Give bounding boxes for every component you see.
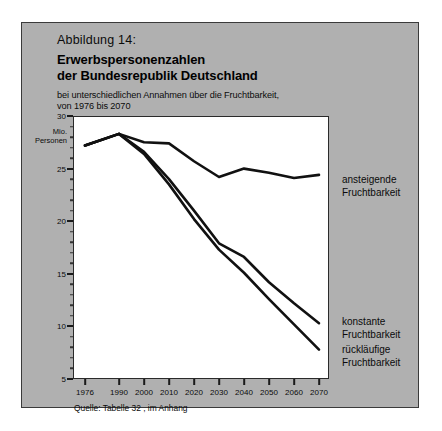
x-axis-tick-label: 2020 (185, 388, 203, 397)
series-line (85, 134, 319, 178)
x-axis-tick-label: 2030 (210, 388, 228, 397)
figure-title-line-1: Erwerbspersonenzahlen (57, 52, 387, 68)
legend-rising-line-1: ansteigende (342, 173, 400, 186)
y-axis-tick-label: 10 (57, 322, 66, 331)
plot-wrapper: Mio. Personen 30252015105 19761990200020… (73, 116, 329, 379)
figure-title-block: Abbildung 14: Erwerbspersonenzahlen der … (57, 33, 387, 113)
legend-rising-line-2: Fruchtbarkeit (342, 186, 400, 199)
x-axis-tick-label: 1976 (76, 388, 94, 397)
y-axis-tick-label: 25 (57, 164, 66, 173)
legend-ansteigende-fruchtbarkeit: ansteigende Fruchtbarkeit (342, 173, 400, 199)
x-axis-tick-label: 2070 (310, 388, 328, 397)
x-axis-tick-label: 2040 (235, 388, 253, 397)
figure-panel: Abbildung 14: Erwerbspersonenzahlen der … (21, 22, 419, 408)
legend-declining-line-1: rückläufige (342, 343, 400, 356)
x-axis-tick (143, 379, 145, 385)
x-axis-tick (268, 379, 270, 385)
x-axis-tick-label: 2060 (285, 388, 303, 397)
series-lines (73, 116, 329, 379)
x-axis-tick (218, 379, 220, 385)
y-axis-tick-label: 5 (62, 375, 66, 384)
x-axis-tick-label: 1990 (110, 388, 128, 397)
x-axis-tick (243, 379, 245, 385)
legend-constant-line-2: Fruchtbarkeit (342, 328, 400, 341)
x-axis-tick-label: 2000 (135, 388, 153, 397)
y-axis-tick-label: 30 (57, 112, 66, 121)
figure-subtitle-line-1: bei unterschiedlichen Annahmen über die … (57, 90, 387, 102)
y-axis-unit-line-2: Personen (21, 137, 67, 146)
source-note: Quelle: Tabelle 32 , im Anhang (74, 403, 187, 413)
figure-number: Abbildung 14: (57, 33, 387, 47)
x-axis-tick (318, 379, 320, 385)
legend-konstante-fruchtbarkeit: konstante Fruchtbarkeit (342, 315, 400, 341)
legend-ruecklaeufige-fruchtbarkeit: rückläufige Fruchtbarkeit (342, 343, 400, 369)
figure-subtitle-line-2: von 1976 bis 2070 (57, 101, 387, 113)
x-axis-tick (168, 379, 170, 385)
x-axis-tick (84, 379, 86, 385)
legend-constant-line-1: konstante (342, 315, 400, 328)
figure-title: Erwerbspersonenzahlen der Bundesrepublik… (57, 52, 387, 84)
x-axis-tick (293, 379, 295, 385)
x-axis-tick (118, 379, 120, 385)
figure-title-line-2: der Bundesrepublik Deutschland (57, 68, 387, 84)
x-axis-tick (193, 379, 195, 385)
x-axis-tick-label: 2050 (260, 388, 278, 397)
x-axis-tick-label: 2010 (160, 388, 178, 397)
y-axis-tick-label: 15 (57, 269, 66, 278)
y-axis-tick-label: 20 (57, 217, 66, 226)
figure-subtitle: bei unterschiedlichen Annahmen über die … (57, 90, 387, 114)
legend-declining-line-2: Fruchtbarkeit (342, 356, 400, 369)
y-axis-unit-label: Mio. Personen (21, 128, 67, 145)
